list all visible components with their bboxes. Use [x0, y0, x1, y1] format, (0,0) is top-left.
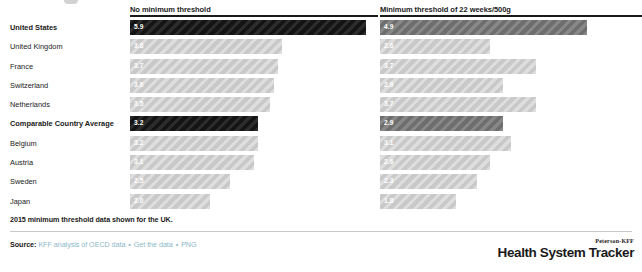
- bar-track-minimum-threshold: 3.7: [380, 59, 642, 74]
- bar-track-no-minimum-threshold: 3.2: [130, 116, 378, 131]
- country-label: Comparable Country Average: [10, 119, 125, 128]
- bar-track-minimum-threshold: 3.7: [380, 97, 642, 112]
- column-rule-right: [380, 15, 642, 17]
- table-row: Netherlands3.53.7: [0, 96, 642, 115]
- bar-no-minimum-threshold[interactable]: 3.5: [130, 97, 270, 112]
- source-separator-2: •: [175, 240, 179, 249]
- source-line: Source: KFF analysis of OECD data • Get …: [10, 240, 197, 249]
- bar-track-minimum-threshold: 2.9: [380, 116, 642, 131]
- bar-no-minimum-threshold[interactable]: 3.1: [130, 155, 254, 170]
- table-row: United States5.94.9: [0, 19, 642, 38]
- bar-track-no-minimum-threshold: 2.0: [130, 194, 378, 209]
- bar-value-label: 3.7: [384, 100, 393, 108]
- logo-wordmark: Health System Tracker: [498, 245, 634, 260]
- country-label: Sweden: [10, 177, 125, 186]
- country-label: United Kingdom: [10, 42, 125, 51]
- bar-no-minimum-threshold[interactable]: 3.8: [130, 39, 282, 54]
- bar-track-no-minimum-threshold: 2.5: [130, 174, 378, 189]
- country-label: Belgium: [10, 139, 125, 148]
- column-header-no-minimum-threshold: No minimum threshold: [130, 5, 211, 14]
- bar-minimum-threshold[interactable]: 3.7: [380, 97, 536, 112]
- bar-track-minimum-threshold: 2.6: [380, 39, 642, 54]
- bar-track-no-minimum-threshold: 3.7: [130, 59, 378, 74]
- bar-no-minimum-threshold[interactable]: 3.2: [130, 116, 258, 131]
- country-label: Switzerland: [10, 81, 125, 90]
- bar-minimum-threshold[interactable]: 2.3: [380, 174, 477, 189]
- bar-value-label: 3.2: [134, 119, 143, 127]
- country-label: United States: [10, 23, 125, 32]
- bar-minimum-threshold[interactable]: 4.9: [380, 20, 587, 35]
- bar-value-label: 3.6: [134, 81, 143, 89]
- country-label: Austria: [10, 158, 125, 167]
- bar-value-label: 5.9: [134, 23, 143, 31]
- bar-value-label: 3.2: [134, 139, 143, 147]
- chart-footnote: 2015 minimum threshold data shown for th…: [10, 215, 173, 224]
- bar-track-no-minimum-threshold: 5.9: [130, 20, 378, 35]
- bar-value-label: 2.5: [134, 177, 143, 185]
- bar-value-label: 3.5: [134, 100, 143, 108]
- country-label: France: [10, 62, 125, 71]
- bar-track-no-minimum-threshold: 3.6: [130, 78, 378, 93]
- bar-no-minimum-threshold[interactable]: 3.6: [130, 78, 274, 93]
- bar-track-minimum-threshold: 2.9: [380, 78, 642, 93]
- bar-value-label: 2.3: [384, 177, 393, 185]
- source-separator-1: •: [127, 240, 131, 249]
- get-the-data-link[interactable]: Get the data: [134, 240, 173, 249]
- column-rule-left: [130, 15, 378, 17]
- bar-value-label: 3.1: [384, 139, 393, 147]
- table-row: France3.73.7: [0, 58, 642, 77]
- bar-track-minimum-threshold: 2.3: [380, 174, 642, 189]
- bar-value-label: 1.8: [384, 197, 393, 205]
- bar-value-label: 2.0: [134, 197, 143, 205]
- chart-rows: United States5.94.9United Kingdom3.82.6F…: [0, 19, 642, 212]
- footer-divider: [10, 231, 632, 232]
- bar-value-label: 3.7: [134, 62, 143, 70]
- bar-minimum-threshold[interactable]: 3.7: [380, 59, 536, 74]
- bar-no-minimum-threshold[interactable]: 5.9: [130, 20, 366, 35]
- bar-no-minimum-threshold[interactable]: 3.7: [130, 59, 278, 74]
- bar-no-minimum-threshold[interactable]: 2.5: [130, 174, 230, 189]
- table-row: Belgium3.23.1: [0, 135, 642, 154]
- bar-minimum-threshold[interactable]: 2.6: [380, 155, 490, 170]
- bar-track-no-minimum-threshold: 3.1: [130, 155, 378, 170]
- bar-value-label: 2.6: [384, 42, 393, 50]
- bar-track-no-minimum-threshold: 3.2: [130, 136, 378, 151]
- table-row: Switzerland3.62.9: [0, 77, 642, 96]
- table-row: Comparable Country Average3.22.9: [0, 115, 642, 134]
- logo-eyebrow: Peterson-KFF: [498, 237, 634, 245]
- bar-track-minimum-threshold: 3.1: [380, 136, 642, 151]
- bar-minimum-threshold[interactable]: 2.9: [380, 116, 503, 131]
- bar-track-no-minimum-threshold: 3.8: [130, 39, 378, 54]
- bar-minimum-threshold[interactable]: 3.1: [380, 136, 511, 151]
- bar-track-minimum-threshold: 4.9: [380, 20, 642, 35]
- bar-value-label: 2.9: [384, 81, 393, 89]
- bar-value-label: 2.9: [384, 119, 393, 127]
- bar-track-no-minimum-threshold: 3.5: [130, 97, 378, 112]
- bar-value-label: 3.7: [384, 62, 393, 70]
- bar-value-label: 2.6: [384, 158, 393, 166]
- bar-minimum-threshold[interactable]: 1.8: [380, 194, 456, 209]
- grouped-bar-chart: No minimum threshold Minimum threshold o…: [0, 0, 642, 210]
- brand-logo: Peterson-KFF Health System Tracker: [498, 237, 634, 260]
- png-download-link[interactable]: PNG: [181, 240, 196, 249]
- bar-track-minimum-threshold: 1.8: [380, 194, 642, 209]
- column-header-minimum-threshold: Minimum threshold of 22 weeks/500g: [380, 5, 511, 14]
- bar-value-label: 3.8: [134, 42, 143, 50]
- bar-no-minimum-threshold[interactable]: 3.2: [130, 136, 258, 151]
- bar-minimum-threshold[interactable]: 2.6: [380, 39, 490, 54]
- source-label: Source:: [10, 240, 36, 249]
- table-row: Japan2.01.8: [0, 193, 642, 212]
- bar-track-minimum-threshold: 2.6: [380, 155, 642, 170]
- country-label: Netherlands: [10, 100, 125, 109]
- table-row: Austria3.12.6: [0, 154, 642, 173]
- table-row: Sweden2.52.3: [0, 173, 642, 192]
- bar-minimum-threshold[interactable]: 2.9: [380, 78, 503, 93]
- source-text: KFF analysis of OECD data: [38, 240, 125, 249]
- bar-no-minimum-threshold[interactable]: 2.0: [130, 194, 210, 209]
- country-label: Japan: [10, 197, 125, 206]
- table-row: United Kingdom3.82.6: [0, 38, 642, 57]
- bar-value-label: 4.9: [384, 23, 393, 31]
- bar-value-label: 3.1: [134, 158, 143, 166]
